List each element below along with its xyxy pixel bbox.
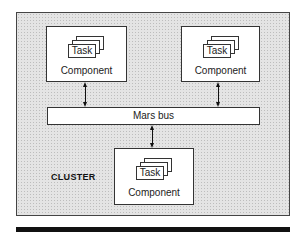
cluster-label: CLUSTER [51,172,96,182]
task-card: Task [68,44,96,58]
component-label: Component [47,65,126,76]
bottom-rule [16,227,290,232]
component-label: Component [182,65,259,76]
bidirectional-arrow-icon [216,82,221,107]
component-box-1: Task Component [46,26,127,82]
task-card: Task [136,166,164,180]
component-box-2: Task Component [181,26,260,82]
component-label: Component [115,187,193,198]
bidirectional-arrow-icon [150,125,155,148]
task-card: Task [203,44,231,58]
bidirectional-arrow-icon [83,82,88,107]
component-box-3: Task Component [114,148,194,205]
mars-bus: Mars bus [47,107,260,125]
